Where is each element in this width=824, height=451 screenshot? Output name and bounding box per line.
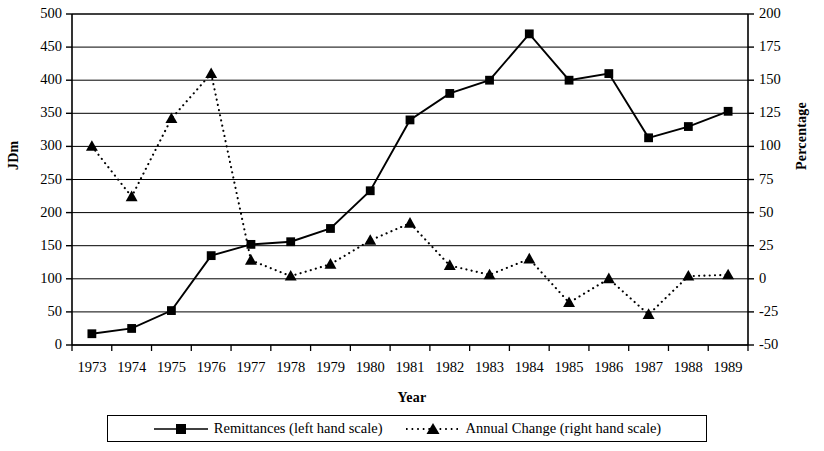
x-axis-tick-label: 1989 (706, 359, 750, 376)
data-point-marker-square (684, 122, 693, 131)
y-axis-left-tick-label: 100 (20, 270, 62, 287)
data-point-marker-triangle (643, 308, 655, 319)
data-point-marker-triangle (364, 234, 376, 245)
data-point-marker-square (127, 324, 136, 333)
data-point-marker-triangle (245, 254, 257, 265)
data-point-marker-triangle (404, 217, 416, 228)
data-point-marker-square (445, 89, 454, 98)
x-axis-tick-label: 1982 (428, 359, 472, 376)
data-point-marker-square (565, 76, 574, 85)
y-axis-left-tick-label: 250 (20, 171, 62, 188)
chart-legend: Remittances (left hand scale) Annual Cha… (107, 415, 707, 442)
data-point-marker-square (406, 116, 415, 125)
y-axis-right-tick-label: 150 (759, 71, 807, 88)
y-axis-left-tick-label: 150 (20, 237, 62, 254)
y-axis-left-tick-label: 350 (20, 104, 62, 121)
data-point-marker-square (286, 237, 295, 246)
data-point-marker-triangle (444, 259, 456, 270)
y-axis-right-tick-label: 50 (759, 204, 807, 221)
legend-key-triangle-dotted (405, 422, 461, 436)
data-point-marker-triangle (86, 140, 98, 151)
x-axis-tick-label: 1978 (269, 359, 313, 376)
data-point-marker-square (326, 224, 335, 233)
data-point-marker-square (604, 69, 613, 78)
data-point-marker-triangle (682, 270, 694, 281)
data-point-marker-square (87, 329, 96, 338)
y-axis-right-tick-label: 175 (759, 38, 807, 55)
y-axis-right-tick-label: 25 (759, 237, 807, 254)
x-axis-tick-label: 1985 (547, 359, 591, 376)
data-point-marker-triangle (523, 253, 535, 264)
x-axis-tick-label: 1981 (388, 359, 432, 376)
remittances-annual-change-chart: JDm Percentage Year 0-5050-2510001502520… (0, 0, 824, 451)
data-point-marker-square (366, 186, 375, 195)
x-axis-tick-label: 1984 (507, 359, 551, 376)
y-axis-left-tick-label: 300 (20, 137, 62, 154)
y-axis-left-tick-label: 450 (20, 38, 62, 55)
legend-key-square-solid (153, 422, 209, 436)
legend-item-remittances: Remittances (left hand scale) (153, 421, 383, 436)
y-axis-right-tick-label: -25 (759, 303, 807, 320)
data-point-marker-triangle (325, 258, 337, 269)
data-point-marker-square (207, 251, 216, 260)
x-axis-tick-label: 1988 (666, 359, 710, 376)
data-point-marker-square (485, 76, 494, 85)
y-axis-right-tick-label: 200 (759, 5, 807, 22)
data-point-marker-triangle (563, 296, 575, 307)
y-axis-left-tick-label: 200 (20, 204, 62, 221)
y-axis-left-tick-label: 50 (20, 303, 62, 320)
data-point-marker-square (167, 306, 176, 315)
x-axis-title: Year (0, 390, 824, 406)
x-axis-tick-label: 1986 (587, 359, 631, 376)
data-point-marker-square (644, 133, 653, 142)
data-point-marker-triangle (722, 269, 734, 280)
legend-label-annual-change: Annual Change (right hand scale) (466, 421, 662, 436)
y-axis-right-tick-label: 75 (759, 171, 807, 188)
y-axis-left-tick-label: 0 (20, 336, 62, 353)
x-axis-tick-label: 1987 (627, 359, 671, 376)
legend-label-remittances: Remittances (left hand scale) (214, 421, 383, 436)
series-line-0 (92, 34, 728, 334)
x-axis-tick-label: 1980 (348, 359, 392, 376)
data-point-marker-triangle (603, 273, 615, 284)
data-point-marker-square (525, 29, 534, 38)
x-axis-tick-label: 1973 (70, 359, 114, 376)
x-axis-tick-label: 1974 (110, 359, 154, 376)
y-axis-left-tick-label: 500 (20, 5, 62, 22)
plot-area (0, 0, 824, 451)
x-axis-tick-label: 1983 (468, 359, 512, 376)
y-axis-right-tick-label: 0 (759, 270, 807, 287)
data-point-marker-triangle (484, 269, 496, 280)
x-axis-tick-label: 1975 (149, 359, 193, 376)
y-axis-right-tick-label: 125 (759, 104, 807, 121)
y-axis-right-tick-label: 100 (759, 137, 807, 154)
data-point-marker-triangle (205, 67, 217, 78)
legend-item-annual-change: Annual Change (right hand scale) (405, 421, 662, 436)
y-axis-left-tick-label: 400 (20, 71, 62, 88)
data-point-marker-square (724, 107, 733, 116)
x-axis-tick-label: 1977 (229, 359, 273, 376)
y-axis-right-tick-label: -50 (759, 336, 807, 353)
x-axis-tick-label: 1976 (189, 359, 233, 376)
x-axis-tick-label: 1979 (308, 359, 352, 376)
